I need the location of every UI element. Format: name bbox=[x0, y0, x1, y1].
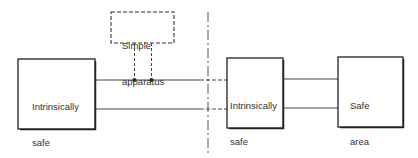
label-line: safe bbox=[230, 136, 277, 148]
safe-area-apparatus-label: Safe area apparatus bbox=[350, 76, 392, 158]
label-line: safe bbox=[32, 137, 79, 149]
label-line: area bbox=[350, 136, 392, 148]
label-line: Safe bbox=[350, 100, 392, 112]
label-line: Intrinsically bbox=[230, 100, 277, 112]
simple-apparatus-label: Simple apparatus bbox=[122, 16, 164, 112]
diagram-canvas: Intrinsically safe apparatus Simple appa… bbox=[0, 0, 418, 158]
label-line: Simple bbox=[122, 40, 164, 52]
label-line: apparatus bbox=[122, 76, 164, 88]
is-apparatus-label: Intrinsically safe apparatus bbox=[32, 77, 79, 158]
label-line: Intrinsically bbox=[32, 101, 79, 113]
is-interface-label: Intrinsically safe interface bbox=[230, 76, 277, 158]
